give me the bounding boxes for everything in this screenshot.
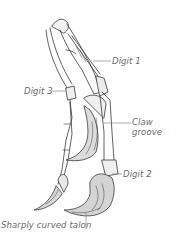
- label-claw-groove-line2: groove: [132, 127, 162, 137]
- label-claw-groove-line1: Claw: [132, 117, 153, 127]
- label-digit-1: Digit 1: [112, 56, 141, 66]
- digit-3-bones: [34, 28, 76, 210]
- talon-illustration: [0, 0, 180, 241]
- large-talon: [64, 174, 114, 216]
- digit-1-bones: [52, 19, 108, 96]
- label-talon: Sharply curved talon: [1, 220, 91, 230]
- label-digit-3: Digit 3: [24, 86, 53, 96]
- label-digit-2: Digit 2: [123, 169, 152, 179]
